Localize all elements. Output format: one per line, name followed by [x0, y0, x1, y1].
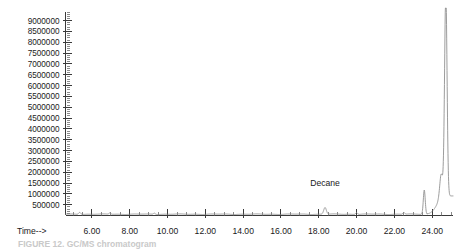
x-axis-title: Time--> [17, 226, 47, 236]
y-axis-tick-label: 1000000 [28, 190, 60, 199]
y-axis-tick-label: 4000000 [28, 125, 60, 134]
y-axis-tick-label: 5000000 [28, 103, 60, 112]
y-axis-tick-labels: 5000001000000150000020000002500000300000… [28, 17, 60, 210]
x-axis-tick-label: 8.00 [121, 226, 138, 236]
y-axis-tick-label: 7500000 [28, 49, 60, 58]
trace-group [66, 8, 454, 215]
decane-peak-label: Decane [310, 178, 340, 188]
y-axis-tick-label: 1500000 [28, 179, 60, 188]
y-axis-tick-label: 2500000 [28, 157, 60, 166]
y-axis-tick-label: 4500000 [28, 114, 60, 123]
y-axis-tick-label: 3500000 [28, 136, 60, 145]
y-axis-tick-label: 3000000 [28, 147, 60, 156]
x-axis-tick-label: 24.00 [421, 226, 443, 236]
chromatogram-figure: 5000001000000150000020000002500000300000… [0, 0, 457, 249]
annotation-group: Decane [310, 178, 340, 188]
figure-caption: FIGURE 12. GC/MS chromatogram [18, 239, 157, 249]
x-axis-tick-label: 18.00 [308, 226, 330, 236]
x-axis-tick-label: 16.00 [270, 226, 292, 236]
y-axis-tick-label: 500000 [32, 201, 60, 210]
y-axis-group: 5000001000000150000020000002500000300000… [28, 12, 72, 215]
x-axis-tick-label: 12.00 [195, 226, 217, 236]
y-axis-tick-label: 8500000 [28, 27, 60, 36]
x-axis-tick-label: 14.00 [232, 226, 254, 236]
y-axis-tick-label: 7000000 [28, 60, 60, 69]
y-axis-major-ticks [63, 21, 72, 205]
x-axis-tick-labels: 6.008.0010.0012.0014.0016.0018.0020.0022… [84, 226, 444, 236]
x-axis-tick-label: 6.00 [84, 226, 101, 236]
y-axis-tick-label: 9000000 [28, 17, 60, 26]
caption-group: FIGURE 12. GC/MS chromatogram [18, 239, 157, 249]
x-axis-tick-label: 22.00 [384, 226, 406, 236]
tic-trace [66, 8, 454, 215]
y-axis-tick-label: 5500000 [28, 92, 60, 101]
y-axis-tick-label: 6000000 [28, 82, 60, 91]
y-axis-tick-label: 6500000 [28, 71, 60, 80]
chromatogram-plot: 5000001000000150000020000002500000300000… [0, 0, 457, 249]
x-axis-group: 6.008.0010.0012.0014.0016.0018.0020.0022… [17, 209, 453, 236]
y-axis-tick-label: 8000000 [28, 38, 60, 47]
x-axis-tick-label: 10.00 [157, 226, 179, 236]
x-axis-tick-label: 20.00 [346, 226, 368, 236]
y-axis-tick-label: 2000000 [28, 168, 60, 177]
